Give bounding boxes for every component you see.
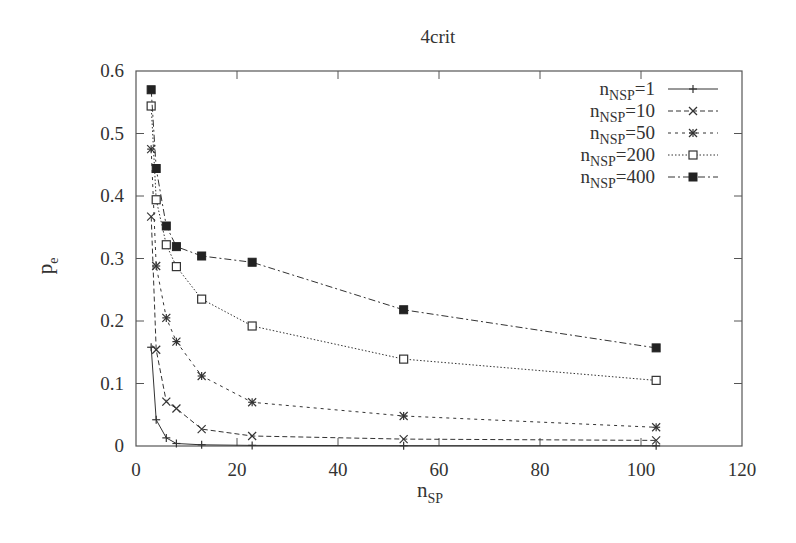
x-tick-label: 120 — [728, 459, 757, 480]
y-tick-label: 0.6 — [100, 60, 124, 81]
legend-item: nNSP=400 — [581, 166, 718, 191]
series-n-nsp-50 — [147, 145, 660, 431]
x-tick-label: 0 — [131, 459, 141, 480]
y-tick-label: 0.4 — [100, 185, 124, 206]
x-tick-label: 20 — [228, 459, 247, 480]
series-n-nsp-400 — [147, 86, 660, 352]
legend-item: nNSP=1 — [600, 78, 718, 103]
legend: nNSP=1nNSP=10nNSP=50nNSP=200nNSP=400 — [581, 78, 718, 191]
y-tick-label: 0.1 — [100, 373, 124, 394]
y-tick-label: 0.3 — [100, 248, 124, 269]
x-tick-label: 100 — [627, 459, 656, 480]
x-axis: 020406080100120 — [131, 71, 756, 480]
x-axis-label: nSP — [417, 478, 443, 506]
y-axis-label: pe — [33, 258, 61, 275]
x-tick-label: 40 — [329, 459, 348, 480]
y-tick-label: 0 — [115, 435, 125, 456]
chart-title: 4crit — [421, 26, 457, 47]
y-tick-label: 0.2 — [100, 310, 124, 331]
series-layer — [147, 86, 660, 450]
x-tick-label: 60 — [430, 459, 449, 480]
legend-label: nNSP=400 — [581, 166, 655, 191]
y-tick-label: 0.5 — [100, 123, 124, 144]
chart: 4crit 020406080100120 00.10.20.30.40.50.… — [0, 0, 796, 543]
x-tick-label: 80 — [531, 459, 550, 480]
series-n-nsp-10 — [147, 213, 660, 445]
